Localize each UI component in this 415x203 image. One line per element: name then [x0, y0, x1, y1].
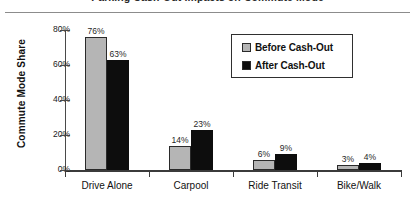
legend-item-before: Before Cash-Out — [242, 40, 333, 54]
bar-value-label: 76% — [81, 26, 111, 36]
y-tick-label: 60% — [38, 59, 70, 69]
bar-value-label: 4% — [355, 152, 385, 162]
chart-caption-text: Parking Cash-Out Impacts on Commute Mode — [0, 0, 415, 3]
y-tick-mark — [60, 135, 70, 136]
x-tick-mark — [233, 170, 234, 177]
bar-bike-walk-before — [337, 165, 359, 170]
legend-swatch-black-icon — [242, 61, 251, 70]
bar-carpool-before — [169, 146, 191, 171]
category-label-carpool: Carpool — [149, 180, 233, 191]
y-tick-label: 40% — [38, 94, 70, 104]
bar-bike-walk-after — [359, 163, 381, 170]
chart-figure: Parking Cash-Out Impacts on Commute Mode… — [0, 0, 415, 203]
legend-item-after: After Cash-Out — [242, 58, 325, 72]
header-divider — [5, 12, 410, 13]
chart-legend: Before Cash-Out After Cash-Out — [231, 34, 353, 78]
chart-caption-clipped: Parking Cash-Out Impacts on Commute Mode — [0, 0, 415, 5]
y-tick-label: 20% — [38, 129, 70, 139]
bar-drive-alone-after — [107, 60, 129, 170]
category-label-bike-walk: Bike/Walk — [317, 180, 401, 191]
x-tick-mark — [65, 170, 66, 177]
legend-label-after: After Cash-Out — [255, 60, 325, 71]
category-label-drive-alone: Drive Alone — [65, 180, 149, 191]
x-tick-mark — [317, 170, 318, 177]
x-tick-mark — [401, 170, 402, 177]
y-tick-mark — [60, 30, 70, 31]
bar-value-label: 23% — [187, 119, 217, 129]
category-label-ride-transit: Ride Transit — [233, 180, 317, 191]
y-tick-label: 80% — [38, 24, 70, 34]
legend-swatch-gray-icon — [242, 43, 251, 52]
bar-ride-transit-before — [253, 160, 275, 171]
y-tick-mark — [60, 100, 70, 101]
bar-value-label: 63% — [103, 49, 133, 59]
y-axis-title: Commute Mode Share — [16, 19, 27, 169]
y-tick-mark — [60, 65, 70, 66]
bar-ride-transit-after — [275, 154, 297, 170]
bar-value-label: 9% — [271, 143, 301, 153]
x-tick-mark — [149, 170, 150, 177]
bar-carpool-after — [191, 130, 213, 170]
legend-label-before: Before Cash-Out — [255, 42, 333, 53]
